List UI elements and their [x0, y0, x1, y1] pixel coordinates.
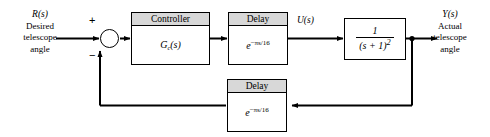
- forward-delay-transfer-function: e−πs/16: [246, 39, 270, 51]
- controller-transfer-function: Gc(s): [160, 39, 181, 51]
- plant-block[interactable]: 1 (s + 1)2: [344, 18, 406, 60]
- input-signal-label: R(s) Desired telescope angle: [2, 9, 78, 55]
- plant-denominator: (s + 1)2: [356, 37, 393, 51]
- output-label-line-1: Actual: [412, 21, 488, 33]
- input-label-line-3: angle: [2, 44, 78, 56]
- input-label-line-2: telescope: [2, 32, 78, 44]
- controller-gain-argument: (s): [170, 39, 181, 50]
- plant-transfer-function: 1 (s + 1)2: [356, 26, 393, 51]
- summing-junction-minus-sign: −: [89, 50, 95, 61]
- controller-block-body: Gc(s): [132, 26, 209, 64]
- forward-delay-block-header: Delay: [229, 13, 287, 26]
- output-symbol: Y(s): [412, 9, 488, 21]
- input-symbol: R(s): [2, 9, 78, 21]
- plant-block-body: 1 (s + 1)2: [345, 19, 405, 59]
- feedback-delay-block-body: e−πs/16: [228, 93, 286, 131]
- feedback-delay-block-header: Delay: [228, 80, 286, 93]
- feedback-delay-exponent: −πs/16: [250, 106, 269, 114]
- control-signal-label: U(s): [297, 15, 314, 25]
- summing-junction-plus-sign: +: [89, 15, 95, 26]
- summing-junction[interactable]: [100, 29, 119, 48]
- feedback-delay-block[interactable]: Delay e−πs/16: [227, 79, 287, 132]
- controller-block[interactable]: Controller Gc(s): [131, 12, 210, 65]
- forward-delay-exponent: −πs/16: [251, 39, 270, 47]
- output-label-line-2: telescope: [412, 32, 488, 44]
- forward-delay-block[interactable]: Delay e−πs/16: [228, 12, 288, 65]
- feedback-delay-transfer-function: e−πs/16: [245, 106, 269, 118]
- block-diagram-canvas: R(s) Desired telescope angle + − Control…: [0, 0, 490, 137]
- plant-numerator: 1: [369, 26, 380, 37]
- output-label-line-3: angle: [412, 44, 488, 56]
- forward-delay-block-body: e−πs/16: [229, 26, 287, 64]
- plant-denominator-base: (s + 1): [359, 41, 386, 52]
- input-label-line-1: Desired: [2, 21, 78, 33]
- plant-denominator-exponent: 2: [387, 38, 391, 47]
- output-signal-label: Y(s) Actual telescope angle: [412, 9, 488, 55]
- controller-block-header: Controller: [132, 13, 209, 26]
